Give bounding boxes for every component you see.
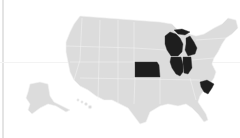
map-frame: United States: [0, 0, 240, 138]
state-kansas[interactable]: [135, 62, 160, 77]
region-hawaii[interactable]: [77, 99, 92, 109]
region-alaska[interactable]: [26, 82, 70, 114]
us-map: [0, 0, 240, 138]
